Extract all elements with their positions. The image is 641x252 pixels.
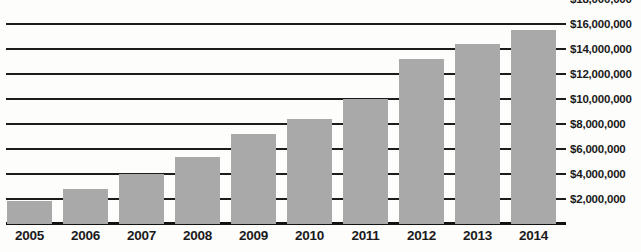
y-axis-tick-label: $16,000,000 [570, 18, 632, 30]
x-axis-tick-label-2006: 2006 [57, 228, 114, 243]
bar-2010 [287, 119, 332, 224]
bar-2013 [455, 44, 500, 224]
bar-2009 [231, 134, 276, 224]
x-axis-tick-label-2005: 2005 [1, 228, 58, 243]
y-axis-tick-label: $8,000,000 [570, 118, 626, 130]
x-axis-tick-label-2012: 2012 [393, 228, 450, 243]
bar-2006 [63, 189, 108, 224]
bar-2011 [343, 99, 388, 224]
x-axis-tick-label-2007: 2007 [113, 228, 170, 243]
bar-2014 [511, 30, 556, 224]
bar-2008 [175, 157, 220, 223]
y-axis-tick-label: $18,000,000 [570, 0, 632, 5]
y-axis-tick-label: $6,000,000 [570, 143, 626, 155]
x-axis-tick-label-2011: 2011 [337, 228, 394, 243]
y-axis-tick-labels: $2,000,000$4,000,000$6,000,000$8,000,000… [570, 0, 641, 232]
gridline [6, 23, 566, 25]
bar-2005 [7, 201, 52, 224]
x-axis-tick-label-2008: 2008 [169, 228, 226, 243]
bar-2007 [119, 174, 164, 224]
y-axis-tick-label: $2,000,000 [570, 193, 626, 205]
y-axis-tick-label: $10,000,000 [570, 93, 632, 105]
y-axis-tick-label: $4,000,000 [570, 168, 626, 180]
y-axis-tick-label: $12,000,000 [570, 68, 632, 80]
y-axis-tick-mark [552, 23, 566, 25]
bar-2012 [399, 59, 444, 224]
y-axis-tick-label: $14,000,000 [570, 43, 632, 55]
x-axis-tick-label-2010: 2010 [281, 228, 338, 243]
x-axis-tick-label-2014: 2014 [505, 228, 562, 243]
x-axis-tick-label-2009: 2009 [225, 228, 282, 243]
plot-area [0, 0, 566, 232]
bar-chart: $2,000,000$4,000,000$6,000,000$8,000,000… [0, 0, 641, 252]
x-axis-tick-labels: 2005200620072008200920102011201220132014 [0, 228, 566, 252]
x-axis-tick-label-2013: 2013 [449, 228, 506, 243]
